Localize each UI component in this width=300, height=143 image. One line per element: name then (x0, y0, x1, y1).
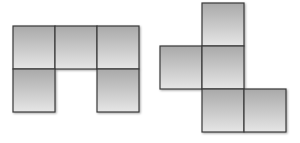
diagram-canvas (0, 0, 300, 143)
right-figure-square (202, 89, 244, 132)
left-figure (13, 26, 139, 112)
left-figure-square (55, 26, 97, 69)
left-figure-square (97, 69, 139, 112)
left-figure-square (13, 26, 55, 69)
left-figure-square (13, 69, 55, 112)
right-figure-square (202, 46, 244, 89)
right-figure (160, 3, 286, 132)
right-figure-square (244, 89, 286, 132)
right-figure-square (202, 3, 244, 46)
left-figure-square (97, 26, 139, 69)
right-figure-square (160, 46, 202, 89)
